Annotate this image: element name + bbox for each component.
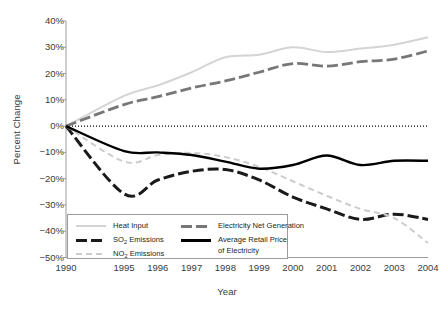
legend-label-so2-subscript: 2: [124, 239, 127, 245]
legend-swatch-heat-input: [76, 225, 106, 227]
legend-label-nox-suffix: Emissions: [128, 249, 165, 258]
legend-swatch-so2: [76, 239, 106, 242]
legend-label-nox-text: NO: [113, 249, 124, 258]
legend-label-nox: NO2 Emissions: [113, 249, 164, 259]
legend-label-retail-price-line1: Average Retail Price: [218, 235, 287, 244]
legend-swatch-nox: [76, 253, 106, 255]
legend-label-retail-price-line2: of Electricity: [218, 246, 259, 255]
legend-label-nox-subscript: 2: [124, 253, 127, 259]
legend-label-net-generation: Electricity Net Generation: [218, 221, 304, 230]
chart-legend: Heat Input SO2 Emissions NO2 Emissions E…: [67, 214, 288, 259]
axis-tick-marks: [62, 21, 66, 258]
legend-label-so2-suffix: Emissions: [127, 235, 164, 244]
legend-swatch-retail-price: [181, 239, 211, 242]
data-series-group: [66, 37, 428, 243]
series-line-1: [66, 126, 428, 219]
legend-label-heat-input: Heat Input: [113, 221, 148, 230]
legend-label-so2: SO2 Emissions: [113, 235, 164, 245]
series-line-0: [66, 37, 428, 126]
legend-swatch-net-generation: [181, 225, 211, 228]
series-line-3: [66, 51, 428, 126]
legend-label-so2-text: SO: [113, 235, 124, 244]
